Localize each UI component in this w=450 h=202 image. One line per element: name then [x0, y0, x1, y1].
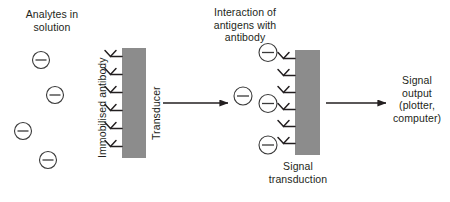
analyte-icon [40, 152, 57, 169]
bound-antigen-icon [259, 95, 277, 113]
immobilised-antibody-label: Immobilised antibody [96, 57, 108, 158]
antibody-icon [278, 121, 295, 127]
analytes-heading: Analytes in solution [6, 8, 98, 33]
analyte-icon [33, 52, 50, 69]
transducer-bar-stage2 [122, 48, 146, 158]
biosensor-diagram: Analytes in solution Immobilised antibod… [0, 0, 450, 202]
analyte-icon [15, 123, 32, 140]
antibody-icon [278, 70, 295, 76]
signal-output-heading: Signal output (plotter, computer) [386, 74, 448, 124]
antibody-group-stage3 [278, 53, 295, 144]
antibody-icon [105, 51, 122, 57]
bound-antigen-icon [259, 136, 277, 154]
antibody-icon [278, 104, 295, 110]
transducer-bar-stage3 [295, 50, 320, 155]
transducer-label: Transducer [150, 86, 162, 140]
antibody-icon [278, 138, 295, 144]
analyte-group [15, 52, 64, 169]
bound-antigen-icon [259, 44, 277, 62]
free-antigen-icon [234, 87, 252, 105]
interaction-heading: Interaction of antigens with antibody [195, 6, 295, 44]
analyte-icon [47, 87, 64, 104]
bound-antigen-group [259, 44, 277, 155]
signal-transduction-caption: Signal transduction [248, 160, 348, 185]
antibody-icon [278, 53, 295, 59]
antibody-icon [278, 87, 295, 93]
